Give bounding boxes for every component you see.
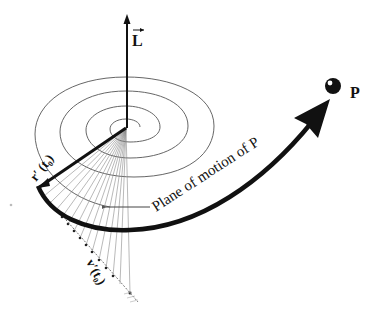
stray-dot xyxy=(10,204,13,207)
orbital-motion-diagram: L Plane of motion of P r′ (t₀) v′(t₀) P xyxy=(0,0,384,322)
svg-text:L: L xyxy=(132,32,143,49)
angular-momentum-label: L xyxy=(132,28,144,49)
particle-label: P xyxy=(350,84,360,101)
angular-momentum-vector xyxy=(124,14,131,128)
velocity-vector-label: v′(t₀) xyxy=(83,256,109,287)
particle-dot xyxy=(325,78,341,94)
